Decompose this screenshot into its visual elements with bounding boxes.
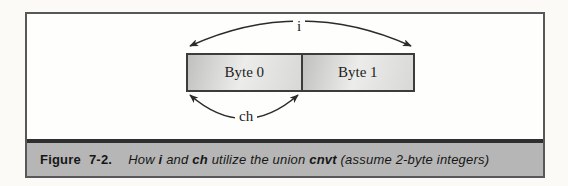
union-byte-boxes: Byte 0 Byte 1: [186, 53, 415, 92]
byte1-label: Byte 1: [338, 64, 378, 81]
arrow-ch-label: ch: [235, 108, 257, 125]
byte0-cell: Byte 0: [188, 55, 301, 90]
caption-text: How i and ch utilize the union cnvt (ass…: [128, 152, 489, 167]
byte0-label: Byte 0: [224, 64, 264, 81]
arrow-i-label: i: [293, 18, 305, 35]
caption-segment: and: [162, 152, 192, 167]
figure-label: Figure: [40, 152, 81, 167]
caption-segment-ch: ch: [192, 152, 208, 167]
caption-segment: utilize the union: [208, 152, 309, 167]
caption-segment: How: [128, 152, 158, 167]
union-diagram: Byte 0 Byte 1 i ch: [27, 14, 543, 139]
figure-frame: Byte 0 Byte 1 i ch Figure 7-2. How i and…: [25, 12, 545, 178]
caption-segment: (assume 2-byte integers): [337, 152, 489, 167]
caption-segment-cnvt: cnvt: [309, 152, 337, 167]
caption-bar: Figure 7-2. How i and ch utilize the uni…: [27, 143, 543, 176]
figure-number: 7-2.: [89, 152, 112, 167]
byte1-cell: Byte 1: [301, 55, 414, 90]
